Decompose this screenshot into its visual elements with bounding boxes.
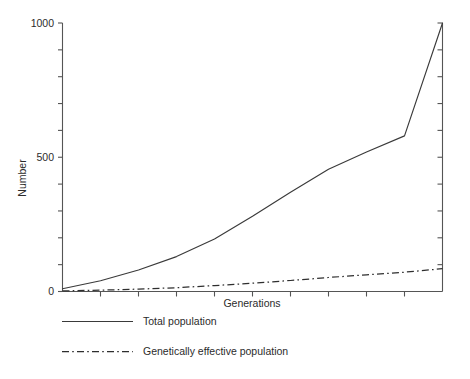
y-tick-label-1000: 1000: [31, 17, 55, 29]
population-growth-chart: 1000 500 0 Number Generations Total popu…: [0, 0, 470, 379]
legend-label-genetically-effective-population: Genetically effective population: [143, 345, 288, 357]
y-axis-title: Number: [16, 159, 28, 197]
y-tick-label-500: 500: [36, 151, 54, 163]
legend-label-total-population: Total population: [143, 315, 217, 327]
x-axis-title: Generations: [223, 297, 280, 309]
figure-background: [0, 0, 470, 379]
y-tick-label-0: 0: [48, 285, 54, 297]
